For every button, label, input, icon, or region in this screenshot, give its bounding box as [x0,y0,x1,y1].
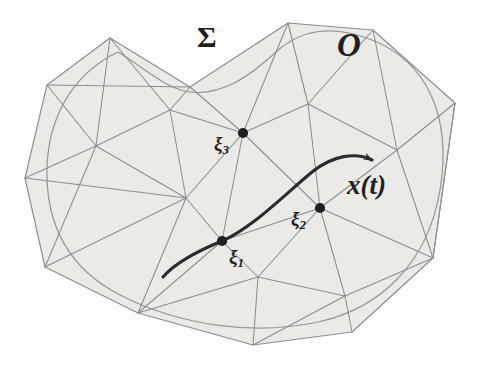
label-xi3: ξ3 [214,134,229,156]
label-xi1-subscript: 1 [238,255,245,270]
label-xi1-base: ξ [229,246,238,267]
label-xi2-subscript: 2 [300,217,307,232]
label-xi3-subscript: 3 [223,142,230,157]
manifold-triangulation-figure [0,0,477,365]
node-xi2 [315,203,325,213]
figure-root: Σ O x(t) ξ3 ξ2 ξ1 [0,0,477,365]
label-region-o: O [337,29,361,62]
label-sigma: Σ [197,22,217,52]
node-xi3 [238,128,248,138]
label-xi2-base: ξ [291,208,300,229]
node-xi1 [217,236,227,246]
label-xi1: ξ1 [229,247,244,269]
label-xi2: ξ2 [291,209,306,231]
label-trajectory-xt: x(t) [347,172,386,199]
label-xi3-base: ξ [214,133,223,154]
